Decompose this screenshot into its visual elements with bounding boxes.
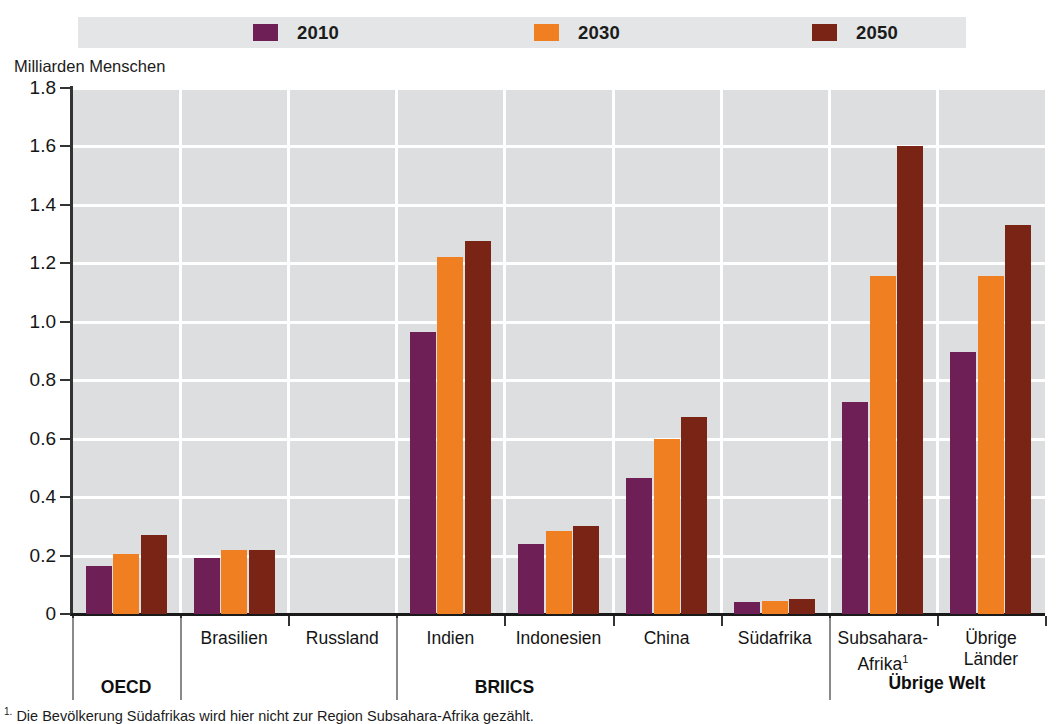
y-axis-tick xyxy=(60,204,71,206)
chart-footnote: 1. Die Bevölkerung Südafrikas wird hier … xyxy=(4,706,534,724)
y-axis-tick-label: 1.6 xyxy=(0,135,56,157)
bar-2010 xyxy=(734,602,760,614)
legend-label-2030: 2030 xyxy=(578,22,620,44)
bar-2010 xyxy=(842,402,868,614)
group-label: BRIICS xyxy=(180,677,829,698)
bar-2030 xyxy=(221,550,247,614)
y-axis-title: Milliarden Menschen xyxy=(14,57,165,76)
bar-2030 xyxy=(437,257,463,614)
bar-2050 xyxy=(1005,225,1031,614)
gridline-vertical xyxy=(720,88,723,614)
bar-2010 xyxy=(86,566,112,614)
y-axis-tick-label: 0.8 xyxy=(0,369,56,391)
bar-2050 xyxy=(141,535,167,614)
y-axis-tick xyxy=(60,555,71,557)
gridline-horizontal xyxy=(72,88,1045,90)
x-axis-tick xyxy=(288,616,290,626)
y-axis-tick-label: 1.0 xyxy=(0,311,56,333)
bar-2050 xyxy=(789,599,815,614)
footnote-text: Die Bevölkerung Südafrikas wird hier nic… xyxy=(16,708,533,724)
y-axis-line xyxy=(70,86,73,616)
group-separator xyxy=(180,618,182,700)
y-axis-tick-label: 1.2 xyxy=(0,252,56,274)
y-axis-tick-label: 1.4 xyxy=(0,194,56,216)
legend-item-2030: 2030 xyxy=(534,22,620,44)
gridline-vertical xyxy=(936,88,939,614)
y-axis-tick-label: 0.2 xyxy=(0,545,56,567)
y-axis-tick xyxy=(60,145,71,147)
chart-legend: 2010 2030 2050 xyxy=(78,17,966,48)
bar-2010 xyxy=(194,558,220,614)
y-axis-tick xyxy=(60,613,71,615)
category-label: ÜbrigeLänder xyxy=(915,628,1057,670)
gridline-vertical xyxy=(503,88,506,614)
y-axis-tick-label: 1.8 xyxy=(0,77,56,99)
category-label-line: Übrige xyxy=(915,628,1057,649)
x-axis-tick xyxy=(613,616,615,626)
gridline-vertical xyxy=(828,88,831,614)
y-axis-tick-label: 0 xyxy=(0,603,56,625)
bar-2010 xyxy=(518,544,544,614)
x-axis-tick xyxy=(721,616,723,626)
group-separator xyxy=(72,618,74,700)
bar-2030 xyxy=(978,276,1004,614)
bar-2050 xyxy=(465,241,491,614)
bar-2010 xyxy=(410,332,436,614)
bar-2050 xyxy=(897,146,923,614)
bar-2030 xyxy=(870,276,896,614)
y-axis-tick xyxy=(60,262,71,264)
y-axis-tick xyxy=(60,321,71,323)
x-axis-tick xyxy=(1045,616,1047,626)
bar-2050 xyxy=(249,550,275,614)
x-axis-tick xyxy=(504,616,506,626)
y-axis-tick xyxy=(60,438,71,440)
legend-swatch-2050 xyxy=(812,24,837,41)
y-axis-tick xyxy=(60,496,71,498)
x-axis-tick xyxy=(937,616,939,626)
bar-2030 xyxy=(113,554,139,614)
gridline-vertical xyxy=(179,88,182,614)
group-separator xyxy=(829,618,831,700)
bar-2050 xyxy=(573,526,599,614)
legend-swatch-2030 xyxy=(534,24,559,41)
bar-2030 xyxy=(762,601,788,614)
legend-label-2010: 2010 xyxy=(297,22,339,44)
gridline-vertical xyxy=(395,88,398,614)
gridline-vertical xyxy=(287,88,290,614)
y-axis-tick-label: 0.6 xyxy=(0,428,56,450)
gridline-vertical xyxy=(612,88,615,614)
group-label: OECD xyxy=(72,677,180,698)
legend-item-2010: 2010 xyxy=(253,22,339,44)
y-axis-tick xyxy=(60,87,71,89)
legend-item-2050: 2050 xyxy=(812,22,898,44)
bar-2030 xyxy=(654,439,680,614)
y-axis-tick-label: 0.4 xyxy=(0,486,56,508)
category-label-line: Länder xyxy=(915,649,1057,670)
y-axis-tick xyxy=(60,379,71,381)
group-separator xyxy=(396,618,398,700)
bar-2010 xyxy=(950,352,976,614)
bar-2050 xyxy=(681,417,707,614)
bar-2010 xyxy=(626,478,652,614)
legend-label-2050: 2050 xyxy=(856,22,898,44)
legend-swatch-2010 xyxy=(253,24,278,41)
bar-2030 xyxy=(546,531,572,614)
group-label: Übrige Welt xyxy=(829,673,1045,694)
